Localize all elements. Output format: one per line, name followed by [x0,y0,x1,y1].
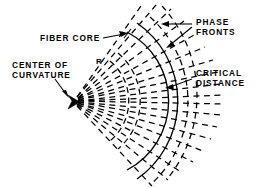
label-fiber-core: FIBER CORE [40,33,100,43]
label-critical-distance-line2: DISTANCE [196,78,245,88]
label-critical-distance-line1: CRITICAL [196,68,242,78]
label-phase-fronts-line1: PHASE [196,17,229,27]
figure-root: FIBER CORE CENTER OF CURVATURE PHASE FRO… [0,0,261,188]
label-phase-fronts-line2: FRONTS [196,27,236,37]
label-center-of-curvature-line2: CURVATURE [12,70,71,80]
label-radius: R [96,57,102,66]
diagram-canvas: FIBER CORE CENTER OF CURVATURE PHASE FRO… [0,0,261,188]
label-center-of-curvature-line1: CENTER OF [12,60,68,70]
